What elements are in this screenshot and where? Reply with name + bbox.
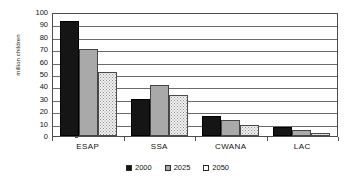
bar-lac-2025 <box>292 130 311 136</box>
bar-esap-2050 <box>98 72 117 136</box>
y-tick-label: 40 <box>26 83 48 91</box>
x-axis-label-lac: LAC <box>267 142 339 151</box>
bar-lac-2000 <box>273 127 292 136</box>
bar-chart: million children 0102030405060708090100 … <box>0 0 355 183</box>
legend-swatch-icon-2025 <box>165 165 171 171</box>
bar-esap-2025 <box>79 49 98 136</box>
chart-legend: 200020252050 <box>0 163 355 172</box>
x-axis-tick-marks <box>52 137 338 141</box>
bar-lac-2050 <box>311 133 330 136</box>
legend-item-2025: 2025 <box>165 163 191 172</box>
bar-group-cwana <box>195 14 266 136</box>
y-tick-label: 20 <box>26 108 48 116</box>
x-axis-label-ssa: SSA <box>124 142 196 151</box>
y-tick-label: 90 <box>26 21 48 29</box>
y-axis-title: million children <box>15 15 21 95</box>
x-axis-label-cwana: CWANA <box>195 142 267 151</box>
bar-cwana-2050 <box>240 125 259 136</box>
bar-cwana-2000 <box>202 116 221 136</box>
x-tick-mark <box>195 137 196 141</box>
plot-area <box>52 13 338 137</box>
bar-ssa-2025 <box>150 85 169 136</box>
legend-label: 2000 <box>135 163 152 172</box>
bar-group-lac <box>266 14 337 136</box>
y-tick-label: 100 <box>26 9 48 17</box>
bar-group-esap <box>53 14 124 136</box>
x-tick-mark <box>52 137 53 141</box>
y-tick-label: 10 <box>26 121 48 129</box>
bar-group-ssa <box>124 14 195 136</box>
y-tick-label: 50 <box>26 71 48 79</box>
bar-ssa-2050 <box>169 95 188 136</box>
x-axis-category-labels: ESAPSSACWANALAC <box>52 142 338 151</box>
y-tick-label: 70 <box>26 46 48 54</box>
y-tick-label: 30 <box>26 96 48 104</box>
legend-swatch-icon-2000 <box>126 165 132 171</box>
bar-cwana-2025 <box>221 120 240 136</box>
legend-swatch-icon-2050 <box>203 165 209 171</box>
x-tick-mark <box>267 137 268 141</box>
x-tick-mark <box>124 137 125 141</box>
legend-item-2050: 2050 <box>203 163 229 172</box>
legend-item-2000: 2000 <box>126 163 152 172</box>
legend-label: 2050 <box>212 163 229 172</box>
x-axis-label-esap: ESAP <box>52 142 124 151</box>
bar-esap-2000 <box>60 21 79 136</box>
bar-ssa-2000 <box>131 99 150 136</box>
y-tick-label: 60 <box>26 59 48 67</box>
y-tick-label: 80 <box>26 34 48 42</box>
y-axis-tick-labels: 0102030405060708090100 <box>26 13 48 137</box>
y-tick-label: 0 <box>26 133 48 141</box>
x-tick-mark <box>338 137 339 141</box>
legend-label: 2025 <box>174 163 191 172</box>
bars-layer <box>53 14 337 136</box>
